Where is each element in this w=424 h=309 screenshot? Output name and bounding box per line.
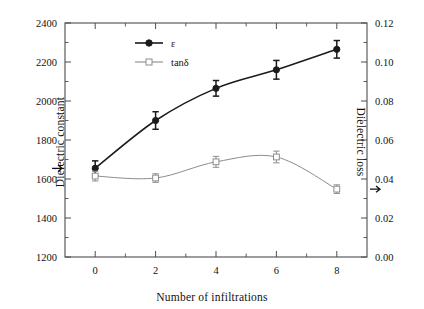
x-tick-label: 0 [93, 265, 98, 276]
x-tick-label: 6 [274, 265, 279, 276]
x-tick-label: 8 [334, 265, 339, 276]
y-axis-right-title: Dielectric loss [251, 32, 424, 252]
y-axis-left-title: Dielectric constant [0, 32, 170, 252]
x-axis-title: Number of infiltrations [0, 291, 424, 303]
y-right-tick-label: 0.12 [375, 18, 393, 29]
y-left-tick-label: 1200 [36, 252, 57, 263]
data-point-tandelta [213, 159, 219, 165]
x-tick-label: 4 [213, 265, 219, 276]
y-right-tick-label: 0.00 [375, 252, 393, 263]
data-point-epsilon [213, 85, 219, 91]
y-left-tick-label: 2400 [36, 18, 57, 29]
chart-figure: 0246812001400160018002000220024000.000.0… [0, 0, 424, 309]
x-tick-label: 2 [153, 265, 158, 276]
legend-label-tandelta: tanδ [171, 57, 189, 68]
legend-label-epsilon: ε [171, 38, 176, 49]
